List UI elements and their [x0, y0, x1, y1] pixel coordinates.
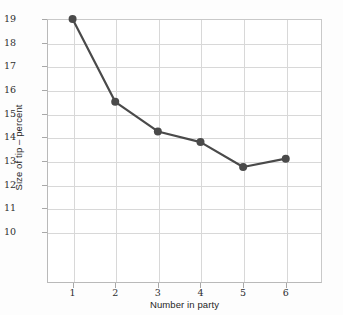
gridline-vertical — [74, 20, 75, 282]
gridline-vertical — [287, 20, 288, 282]
y-tick-mark — [42, 161, 47, 162]
y-tick-mark — [42, 114, 47, 115]
gridline-horizontal — [48, 91, 321, 92]
gridline-horizontal — [48, 67, 321, 68]
gridline-horizontal — [48, 115, 321, 116]
x-tick-label: 3 — [147, 288, 169, 298]
gridline-horizontal — [48, 44, 321, 45]
plot-area — [47, 19, 322, 283]
y-tick-label: 19 — [0, 14, 16, 24]
y-tick-mark — [42, 232, 47, 233]
gridline-horizontal — [48, 209, 321, 210]
y-tick-mark — [42, 208, 47, 209]
x-tick-label: 1 — [62, 288, 84, 298]
x-tick-label: 2 — [104, 288, 126, 298]
x-tick-label: 4 — [189, 288, 211, 298]
y-tick-label: 10 — [0, 227, 16, 237]
gridline-vertical — [201, 20, 202, 282]
y-tick-label: 17 — [0, 61, 16, 71]
gridline-horizontal — [48, 186, 321, 187]
x-axis-label: Number in party — [47, 299, 322, 310]
y-tick-mark — [42, 90, 47, 91]
y-tick-label: 18 — [0, 38, 16, 48]
chart-container: 19181716151413121110123456 Number in par… — [0, 0, 343, 315]
y-tick-mark — [42, 19, 47, 20]
y-tick-mark — [42, 185, 47, 186]
y-tick-mark — [42, 66, 47, 67]
gridline-vertical — [116, 20, 117, 282]
x-tick-label: 5 — [232, 288, 254, 298]
y-tick-mark — [42, 137, 47, 138]
gridline-horizontal — [48, 162, 321, 163]
y-axis-label: Size of tip – percent — [13, 73, 24, 223]
gridline-horizontal — [48, 138, 321, 139]
y-tick-mark — [42, 43, 47, 44]
gridline-horizontal — [48, 233, 321, 234]
x-tick-label: 6 — [275, 288, 297, 298]
gridline-vertical — [159, 20, 160, 282]
gridline-vertical — [244, 20, 245, 282]
